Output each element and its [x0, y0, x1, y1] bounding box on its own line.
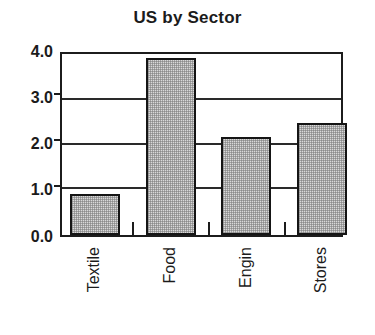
x-axis-label-stores: Stores [313, 247, 329, 293]
y-axis-tick-label-0: 0.0 [1, 229, 53, 245]
bar-textile[interactable] [70, 194, 120, 235]
bar-food[interactable] [146, 58, 196, 235]
plot-inner [62, 54, 341, 235]
bar-chart: US by Sector 4.0 3.0 2.0 1.0 0.0 Textile… [0, 0, 375, 335]
chart-title: US by Sector [0, 8, 375, 28]
y-axis-tick-label-4: 4.0 [1, 44, 53, 60]
x-axis-tick-mark-1 [132, 222, 134, 235]
y-axis-tick-label-2: 2.0 [1, 136, 53, 152]
y-axis-tick-label-1: 1.0 [1, 182, 53, 198]
gridline-3 [62, 98, 341, 100]
x-axis-tick-mark-3 [284, 222, 286, 235]
plot-area [60, 52, 343, 237]
x-axis-label-textile: Textile [86, 247, 102, 292]
x-axis-tick-mark-2 [208, 222, 210, 235]
x-axis-label-food: Food [162, 247, 178, 283]
y-axis-tick-label-3: 3.0 [1, 90, 53, 106]
bar-stores[interactable] [297, 123, 347, 235]
x-axis-label-engin: Engin [238, 247, 254, 288]
bar-engin[interactable] [221, 137, 271, 235]
